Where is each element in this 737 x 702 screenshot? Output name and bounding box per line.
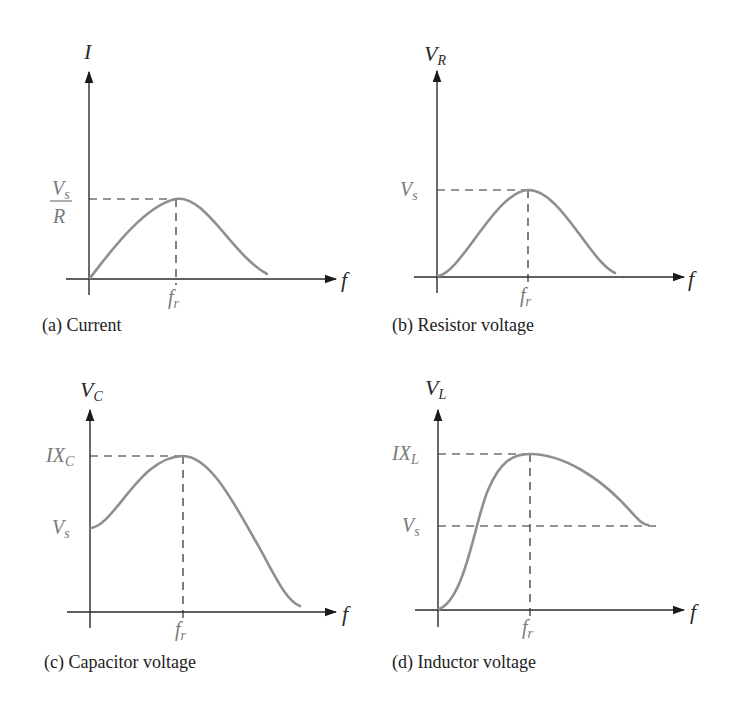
caption: (c) Capacitor voltage (44, 652, 196, 673)
x-axis-label: f (690, 599, 699, 624)
panel-d-inductor-voltage: VL f IXL Vs fr (d) Inductor voltage (391, 375, 699, 673)
x-axis-label: f (342, 601, 351, 626)
x-tick-fr: fr (522, 616, 534, 641)
current-curve (90, 199, 267, 278)
y-axis-label: VC (80, 377, 103, 404)
inductor-voltage-curve (439, 454, 648, 609)
y-tick-ixc: IXC (45, 444, 75, 469)
y-tick-vs: Vs (52, 516, 70, 541)
panel-c-capacitor-voltage: VC f IXC Vs fr (c) Capacitor voltage (44, 377, 351, 673)
y-axis-label: VR (424, 41, 446, 68)
caption: (d) Inductor voltage (392, 652, 536, 673)
x-axis-label: f (341, 267, 350, 292)
y-tick-vs: Vs (402, 514, 420, 539)
x-tick-fr: fr (168, 286, 180, 311)
panel-a-current: I f Vs R fr (a) Current (42, 39, 350, 336)
caption: (a) Current (42, 315, 121, 336)
y-axis-label: VL (425, 375, 446, 402)
x-tick-fr: fr (520, 284, 532, 309)
figure-canvas: I f Vs R fr (a) Current VR f Vs fr (b) R… (0, 0, 737, 702)
y-axis-label: I (83, 39, 93, 64)
x-tick-fr: fr (175, 618, 187, 643)
capacitor-voltage-curve (91, 456, 300, 606)
panel-b-resistor-voltage: VR f Vs fr (b) Resistor voltage (392, 41, 697, 336)
resistor-voltage-curve (438, 190, 615, 276)
y-tick-vs: Vs (400, 178, 418, 203)
x-axis-label: f (688, 266, 697, 291)
y-tick-vs-over-r: Vs R (50, 177, 72, 227)
svg-text:R: R (52, 205, 65, 227)
y-tick-ixl: IXL (391, 442, 419, 467)
caption: (b) Resistor voltage (392, 315, 534, 336)
svg-text:Vs: Vs (52, 177, 70, 202)
